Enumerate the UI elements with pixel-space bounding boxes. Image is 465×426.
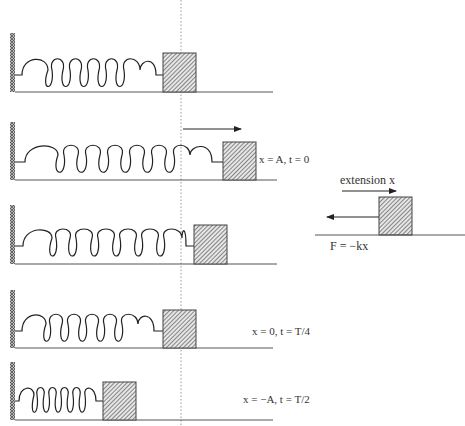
spring-mass-diagram xyxy=(0,0,465,426)
spring xyxy=(15,59,163,87)
wall xyxy=(10,122,15,180)
wall xyxy=(10,205,15,264)
label-x-equals-0: x = 0, t = T/4 xyxy=(252,325,310,337)
mass-block xyxy=(379,197,412,235)
wall xyxy=(10,362,15,420)
panel-rest xyxy=(10,33,273,92)
force-diagram xyxy=(315,191,465,235)
label-extension: extension x xyxy=(340,173,395,188)
mass-block xyxy=(194,225,227,264)
wall xyxy=(10,290,15,348)
label-x-equals-A: x = A, t = 0 xyxy=(259,153,309,165)
panel-compressed xyxy=(10,362,273,420)
mass-block xyxy=(163,310,196,348)
panel-equilibrium xyxy=(10,290,273,348)
panel-intermediate xyxy=(10,205,277,264)
mass-block xyxy=(163,53,196,92)
spring xyxy=(15,229,194,256)
mass-block xyxy=(103,382,136,420)
mass-block xyxy=(223,142,256,180)
spring xyxy=(15,145,223,172)
wall xyxy=(10,33,15,92)
label-force: F = −kx xyxy=(330,239,368,254)
spring xyxy=(15,314,163,341)
label-x-equals-minus-A: x = −A, t = T/2 xyxy=(243,393,310,405)
panel-extended xyxy=(10,122,277,180)
spring xyxy=(15,388,103,413)
